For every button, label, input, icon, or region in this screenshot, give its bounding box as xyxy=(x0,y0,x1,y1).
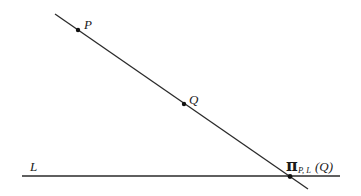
label-pi-subscript: P, L xyxy=(297,165,311,175)
label-projection: π P, L (Q) xyxy=(286,156,333,175)
label-q: Q xyxy=(189,92,199,107)
point-p xyxy=(76,28,80,32)
label-pi-argument: (Q) xyxy=(315,159,333,174)
projection-diagram: P Q L π P, L (Q) xyxy=(0,0,361,196)
label-l: L xyxy=(29,159,37,174)
line-through-p-q xyxy=(55,14,308,189)
point-q xyxy=(182,102,186,106)
label-pi-symbol: π xyxy=(286,156,298,175)
label-p: P xyxy=(83,17,92,32)
